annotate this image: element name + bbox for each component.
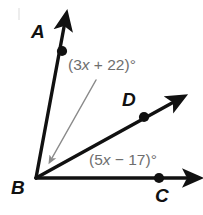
- point-marker-d: [139, 112, 149, 122]
- angle-abd-degree-symbol: °: [130, 56, 136, 73]
- point-label-d: D: [122, 90, 136, 109]
- angle-label-abd: (3x + 22)°: [68, 57, 136, 73]
- point-label-a: A: [31, 22, 45, 41]
- angle-dbc-degree-symbol: °: [151, 151, 157, 168]
- angle-abd-variable: x: [82, 56, 90, 73]
- angle-abd-coefficient: 3: [73, 56, 82, 73]
- leader-arrow-angle-abd: [52, 80, 96, 158]
- scan-artifact: [18, 8, 20, 20]
- point-label-b: B: [11, 178, 25, 197]
- point-label-c: C: [155, 186, 169, 205]
- angle-abd-operator: +: [90, 56, 108, 73]
- angle-abd-constant: 22: [107, 56, 124, 73]
- angle-dbc-operator: −: [111, 151, 129, 168]
- point-marker-a: [57, 46, 67, 56]
- angle-diagram: A B C D (3x + 22)° (5x − 17)°: [0, 0, 203, 215]
- angle-dbc-variable: x: [103, 151, 111, 168]
- angle-dbc-constant: 17: [128, 151, 145, 168]
- angle-label-dbc: (5x − 17)°: [89, 152, 157, 168]
- point-marker-c: [154, 173, 164, 183]
- angle-dbc-coefficient: 5: [94, 151, 103, 168]
